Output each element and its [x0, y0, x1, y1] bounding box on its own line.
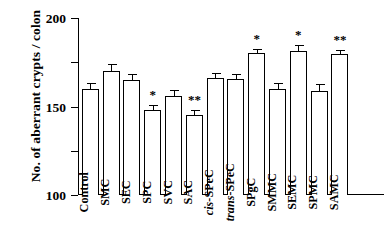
bar-category-label: SEMC	[286, 174, 298, 209]
significance-marker: **	[188, 93, 201, 106]
bar: Control	[82, 89, 99, 195]
error-bar	[111, 64, 112, 72]
y-axis-title: No. of aberrant crypts / colon	[28, 0, 44, 196]
error-bar	[153, 105, 154, 111]
error-bar	[174, 90, 175, 97]
error-bar	[194, 110, 195, 116]
bar-slot: *SPC	[142, 18, 163, 195]
error-bar	[278, 83, 279, 90]
bar: trans-SPeC	[227, 79, 244, 195]
bar-slot: *SEMC	[288, 18, 309, 195]
y-tick-label: 150	[46, 101, 66, 115]
bar-slot: SPMC	[309, 18, 330, 195]
plot-area: 050100150200 ControlSMCSEC*SPCSVC**SACci…	[78, 18, 384, 195]
bar-category-label: Control	[78, 172, 90, 212]
y-tick-label: 200	[46, 12, 66, 26]
error-bar	[257, 49, 258, 54]
error-bar	[132, 74, 133, 81]
bar-category-label: SMMC	[265, 173, 277, 212]
bar: SVC	[165, 96, 182, 195]
y-tick: 150	[71, 62, 78, 63]
figure: No. of aberrant crypts / colon 050100150…	[0, 0, 390, 250]
bar-slot: SMC	[101, 18, 122, 195]
bar-slot: trans-SPeC	[226, 18, 247, 195]
significance-marker: *	[295, 28, 302, 41]
error-bar	[319, 84, 320, 92]
bar-category-label: trans-SPeC	[224, 163, 236, 221]
significance-marker: *	[150, 88, 157, 101]
bar-category-label: SAC	[182, 180, 194, 204]
bar: *SEMC	[290, 51, 307, 195]
y-axis-line	[78, 18, 79, 195]
bar-slot: *SPgC	[246, 18, 267, 195]
bar-category-label: SEC	[120, 180, 132, 204]
y-tick: 50	[71, 151, 78, 152]
bar: cis-SPeC	[207, 78, 224, 195]
bar-category-label: SMC	[99, 178, 111, 205]
bar-category-label: SPC	[141, 180, 153, 203]
y-tick-label: 100	[46, 189, 66, 203]
bar-category-label: SPgC	[245, 177, 257, 206]
bar-slot: Control	[80, 18, 101, 195]
bar: **SAC	[186, 115, 203, 195]
bar-category-label: SPMC	[307, 175, 319, 210]
error-bar	[340, 50, 341, 55]
error-bar	[236, 74, 237, 80]
bar-slot: **SAMC	[330, 18, 351, 195]
y-tick: 200	[71, 18, 78, 19]
bar-series: ControlSMCSEC*SPCSVC**SACcis-SPeCtrans-S…	[80, 18, 350, 195]
significance-marker: *	[254, 32, 261, 45]
significance-marker: **	[333, 33, 346, 46]
bar: SEC	[123, 80, 140, 195]
bar-category-label: SAMC	[328, 174, 340, 210]
bar-slot: SVC	[163, 18, 184, 195]
bar-slot: SEC	[122, 18, 143, 195]
y-tick: 100	[71, 107, 78, 108]
bar: **SAMC	[331, 54, 348, 195]
error-bar	[215, 73, 216, 79]
bar-category-label: SVC	[161, 180, 173, 204]
bar: *SPC	[144, 110, 161, 195]
error-bar	[90, 83, 91, 90]
bar-slot: SMMC	[267, 18, 288, 195]
bar: SPMC	[311, 91, 328, 195]
bar: SMMC	[269, 89, 286, 195]
bar-category-label: cis-SPeC	[203, 169, 215, 215]
error-bar	[298, 45, 299, 52]
bar: SMC	[103, 71, 120, 195]
bar: *SPgC	[248, 53, 265, 195]
